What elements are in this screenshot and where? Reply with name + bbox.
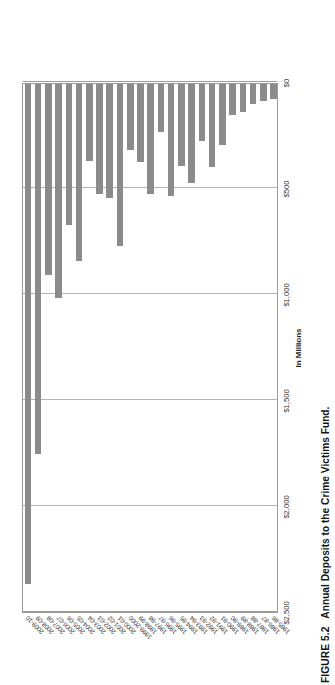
bar-row	[54, 84, 64, 612]
bar-1996-97	[158, 84, 165, 132]
bar-2002-03	[96, 84, 103, 194]
bar-row	[43, 84, 53, 612]
bar-row	[258, 84, 268, 612]
bar-2001-02	[106, 84, 113, 198]
value-tick-label: $1,500	[282, 389, 291, 412]
bar-row	[187, 84, 197, 612]
bar-row	[228, 84, 238, 612]
bar-row	[115, 84, 125, 612]
plot-area	[22, 83, 278, 613]
bar-1986-87	[260, 84, 267, 101]
bar-1987-88	[250, 84, 257, 104]
bar-1991-92	[209, 84, 216, 167]
bar-row	[269, 84, 279, 612]
value-tick-label: $2,000	[282, 495, 291, 518]
value-tick-label: $0	[282, 79, 291, 87]
bar-1992-93	[199, 84, 206, 141]
bar-1993-94	[188, 84, 195, 183]
bar-2003-04	[86, 84, 93, 161]
bar-row	[105, 84, 115, 612]
bar-2000-01	[117, 84, 124, 246]
bar-row	[136, 84, 146, 612]
bar-1989-90	[229, 84, 236, 115]
bar-row	[166, 84, 176, 612]
bar-1999-2000	[127, 84, 134, 150]
bar-row	[23, 84, 33, 612]
bar-1997-98	[147, 84, 154, 194]
bar-row	[95, 84, 105, 612]
bar-1998-99	[137, 84, 144, 162]
bar-row	[64, 84, 74, 612]
category-axis: 2009-102008-092007-082006-072005-062004-…	[22, 613, 278, 685]
value-tick-label: $1,000	[282, 283, 291, 306]
bar-row	[197, 84, 207, 612]
bar-2007-08	[45, 84, 52, 275]
bar-row	[177, 84, 187, 612]
figure-number: FIGURE 5.2	[320, 627, 331, 683]
bar-1988-89	[240, 84, 247, 112]
bar-2008-09	[35, 84, 42, 454]
bar-2009-10	[25, 84, 32, 584]
axis-title: In Millions	[294, 83, 303, 613]
bar-row	[156, 84, 166, 612]
bar-row	[238, 84, 248, 612]
value-tick-label: $500	[282, 181, 291, 198]
figure-caption-text: Annual Deposits to the Crime Victims Fun…	[320, 407, 331, 619]
bar-1995-96	[168, 84, 175, 196]
rotated-page-frame: 2009-102008-092007-082006-072005-062004-…	[0, 0, 335, 685]
bar-2006-07	[55, 84, 62, 298]
bar-row	[146, 84, 156, 612]
bar-row	[84, 84, 94, 612]
figure-caption: FIGURE 5.2 Annual Deposits to the Crime …	[320, 23, 331, 683]
value-tick-label: $2,500	[282, 601, 291, 624]
bar-1994-95	[178, 84, 185, 166]
bar-row	[74, 84, 84, 612]
bar-chart: 2009-102008-092007-082006-072005-062004-…	[22, 77, 285, 685]
bar-row	[125, 84, 135, 612]
bar-1990-91	[219, 84, 226, 145]
bar-1985-86	[270, 84, 277, 99]
bar-row	[248, 84, 258, 612]
gridline-0	[23, 81, 277, 82]
bar-2004-05	[76, 84, 83, 261]
bar-row	[33, 84, 43, 612]
bar-row	[207, 84, 217, 612]
bar-2005-06	[66, 84, 73, 225]
bar-row	[217, 84, 227, 612]
figure-canvas: 2009-102008-092007-082006-072005-062004-…	[0, 0, 335, 685]
